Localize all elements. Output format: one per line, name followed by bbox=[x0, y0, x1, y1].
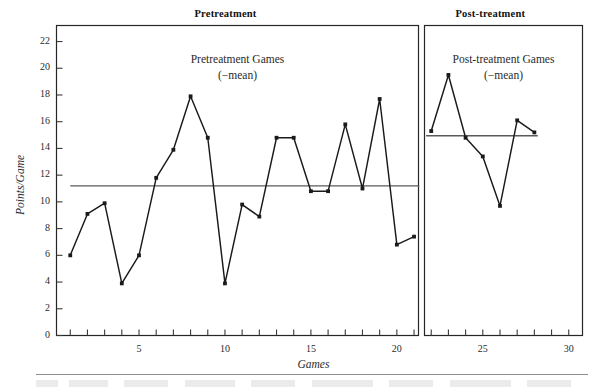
data-point-marker bbox=[154, 176, 158, 180]
series-markers bbox=[68, 73, 536, 285]
y-tick-label-18: 18 bbox=[18, 88, 50, 99]
data-point-marker bbox=[292, 136, 296, 140]
y-tick-label-4: 4 bbox=[18, 275, 50, 286]
y-tick-label-8: 8 bbox=[18, 222, 50, 233]
panel-title-post-treatment: Post-treatment Games (−mean) bbox=[414, 52, 594, 83]
data-point-marker bbox=[206, 136, 210, 140]
footer-divider bbox=[36, 374, 588, 375]
y-tick-label-10: 10 bbox=[18, 195, 50, 206]
x-tick-label-30: 30 bbox=[554, 343, 584, 354]
data-point-marker bbox=[68, 253, 72, 257]
panel-title-pretreatment-line1: Pretreatment Games bbox=[148, 52, 328, 68]
data-point-marker bbox=[240, 203, 244, 207]
data-point-marker bbox=[515, 118, 519, 122]
y-tick-label-2: 2 bbox=[18, 302, 50, 313]
data-point-marker bbox=[120, 281, 124, 285]
x-tick-label-25: 25 bbox=[468, 343, 498, 354]
x-tick-label-10: 10 bbox=[210, 343, 240, 354]
data-point-marker bbox=[343, 122, 347, 126]
data-point-marker bbox=[532, 131, 536, 135]
panel-title-pretreatment-line2: (−mean) bbox=[148, 68, 328, 84]
data-point-marker bbox=[86, 212, 90, 216]
data-point-marker bbox=[223, 281, 227, 285]
mean-lines bbox=[70, 136, 538, 186]
data-point-marker bbox=[429, 129, 433, 133]
y-tick-label-22: 22 bbox=[18, 35, 50, 46]
data-point-marker bbox=[171, 148, 175, 152]
y-tick-label-0: 0 bbox=[18, 329, 50, 340]
figure-container: Pretreatment Post-treatment Pretreatment… bbox=[0, 0, 597, 389]
data-point-marker bbox=[326, 189, 330, 193]
panel-title-pretreatment: Pretreatment Games (−mean) bbox=[148, 52, 328, 83]
y-tick-label-16: 16 bbox=[18, 115, 50, 126]
data-point-marker bbox=[103, 201, 107, 205]
x-axis-title: Games bbox=[298, 358, 330, 370]
series-line-1 bbox=[431, 75, 534, 206]
data-point-marker bbox=[189, 94, 193, 98]
data-point-marker bbox=[257, 215, 261, 219]
data-point-marker bbox=[378, 97, 382, 101]
data-point-marker bbox=[275, 136, 279, 140]
panel-title-post-treatment-line1: Post-treatment Games bbox=[414, 52, 594, 68]
panel-title-post-treatment-line2: (−mean) bbox=[414, 68, 594, 84]
y-tick-label-6: 6 bbox=[18, 248, 50, 259]
data-point-marker bbox=[309, 189, 313, 193]
data-point-marker bbox=[481, 155, 485, 159]
data-point-marker bbox=[361, 187, 365, 191]
footer-caption-smudge bbox=[36, 380, 588, 387]
data-point-marker bbox=[498, 204, 502, 208]
data-point-marker bbox=[464, 136, 468, 140]
y-tick-label-12: 12 bbox=[18, 168, 50, 179]
x-tick-label-20: 20 bbox=[382, 343, 412, 354]
data-point-marker bbox=[412, 235, 416, 239]
y-tick-label-14: 14 bbox=[18, 141, 50, 152]
x-tick-label-15: 15 bbox=[296, 343, 326, 354]
series-lines bbox=[70, 75, 534, 283]
x-axis-ticks bbox=[70, 330, 568, 336]
data-point-marker bbox=[137, 253, 141, 257]
y-tick-label-20: 20 bbox=[18, 61, 50, 72]
data-point-marker bbox=[395, 243, 399, 247]
y-axis-ticks bbox=[57, 42, 63, 336]
x-tick-label-5: 5 bbox=[124, 343, 154, 354]
